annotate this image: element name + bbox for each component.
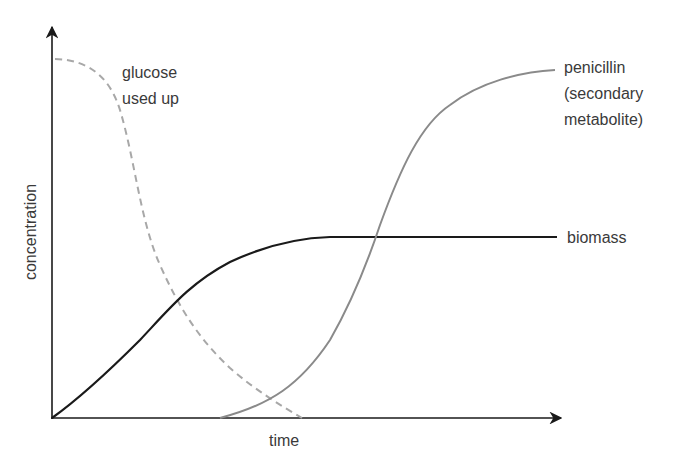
biomass-curve xyxy=(52,237,557,418)
penicillin-label-line2: (secondary xyxy=(564,81,643,107)
biomass-label: biomass xyxy=(567,225,627,251)
glucose-label-line2: used up xyxy=(122,86,179,112)
glucose-label-line1: glucose xyxy=(122,60,179,86)
y-axis-label: concentration xyxy=(22,184,40,280)
glucose-label: glucose used up xyxy=(122,60,179,112)
glucose-curve xyxy=(55,59,302,418)
penicillin-label-line3: metabolite) xyxy=(564,107,643,133)
biomass-label-text: biomass xyxy=(567,225,627,251)
penicillin-curve xyxy=(220,70,555,418)
penicillin-label-line1: penicillin xyxy=(564,55,643,81)
x-axis-label: time xyxy=(269,432,299,450)
penicillin-label: penicillin (secondary metabolite) xyxy=(564,55,643,133)
